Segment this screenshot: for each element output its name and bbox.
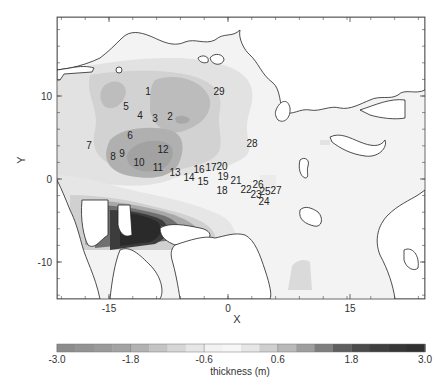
colorbar-tick-label: 0.6 xyxy=(271,354,285,365)
x-tick-label: 0 xyxy=(225,303,231,314)
station-label: 2 xyxy=(167,111,173,122)
station-label: 6 xyxy=(127,130,133,141)
station-label: 4 xyxy=(137,110,143,121)
colorbar-tick-label: -3.0 xyxy=(48,354,66,365)
station-label: 8 xyxy=(110,151,116,162)
station-label: 16 xyxy=(193,164,205,175)
colorbar-bin xyxy=(315,344,334,352)
colorbar-tick-label: -1.8 xyxy=(122,354,140,365)
station-label: 15 xyxy=(197,176,209,187)
station-label: 13 xyxy=(169,167,181,178)
y-tick-label: 10 xyxy=(41,91,53,102)
colorbar-bin xyxy=(333,344,352,352)
y-tick-label: 0 xyxy=(46,174,52,185)
colorbar-bin xyxy=(278,344,297,352)
sea-ice-thickness-map: -15015 100-10 X Y 1234567891011121314151… xyxy=(0,0,447,392)
y-tick-label: -10 xyxy=(38,257,53,268)
station-label: 19 xyxy=(217,171,229,182)
x-tick-label: 15 xyxy=(344,303,356,314)
colorbar: -3.0-1.8-0.60.61.83.0 xyxy=(48,344,432,365)
colorbar-bin xyxy=(149,344,168,352)
station-label: 1 xyxy=(145,86,151,97)
colorbar-tick-label: -0.6 xyxy=(196,354,214,365)
station-label: 10 xyxy=(133,157,145,168)
station-label: 5 xyxy=(123,101,129,112)
station-label: 27 xyxy=(270,185,282,196)
colorbar-bin xyxy=(94,344,113,352)
y-axis-title: Y xyxy=(15,156,27,164)
colorbar-bin xyxy=(351,344,370,352)
station-label: 24 xyxy=(258,196,270,207)
colorbar-bin xyxy=(204,344,223,352)
station-label: 7 xyxy=(86,140,92,151)
station-label: 12 xyxy=(157,144,169,155)
colorbar-tick-label: 3.0 xyxy=(418,354,432,365)
colorbar-bin xyxy=(131,344,150,352)
colorbar-bin xyxy=(407,344,426,352)
station-label: 9 xyxy=(119,148,125,159)
colorbar-bin xyxy=(186,344,205,352)
colorbar-bin xyxy=(259,344,278,352)
colorbar-bin xyxy=(112,344,131,352)
colorbar-bin xyxy=(241,344,260,352)
station-label: 28 xyxy=(246,138,258,149)
colorbar-bin xyxy=(57,344,76,352)
x-tick-label: -15 xyxy=(102,303,117,314)
colorbar-bin xyxy=(370,344,389,352)
station-label: 29 xyxy=(213,86,225,97)
colorbar-bin xyxy=(223,344,242,352)
station-label: 3 xyxy=(152,113,158,124)
colorbar-tick-label: 1.8 xyxy=(344,354,358,365)
colorbar-label: thickness (m) xyxy=(210,366,269,377)
station-label: 18 xyxy=(216,185,228,196)
x-axis-title: X xyxy=(233,313,241,325)
station-label: 17 xyxy=(205,162,217,173)
colorbar-bin xyxy=(296,344,315,352)
station-label: 11 xyxy=(153,162,164,173)
colorbar-bin xyxy=(167,344,186,352)
colorbar-bin xyxy=(388,344,407,352)
colorbar-bin xyxy=(75,344,94,352)
